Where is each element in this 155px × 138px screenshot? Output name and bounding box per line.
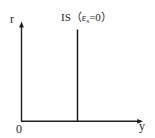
is-curve-label-relation: =0 [89, 11, 101, 23]
horizontal-axis-label: y [139, 120, 145, 132]
is-curve-diagram: r y 0 IS（εs=0） [0, 0, 155, 138]
epsilon-subscript: s [86, 17, 89, 25]
vertical-axis-arrowhead-icon [19, 22, 24, 28]
vertical-axis-label: r [10, 13, 14, 25]
origin-label: 0 [16, 123, 22, 135]
is-curve-label-open-paren: （ [71, 11, 82, 23]
is-curve-label-close-paren: ） [101, 11, 112, 23]
is-curve-label-name: IS [61, 11, 71, 23]
is-curve-label: IS（εs=0） [61, 12, 112, 23]
